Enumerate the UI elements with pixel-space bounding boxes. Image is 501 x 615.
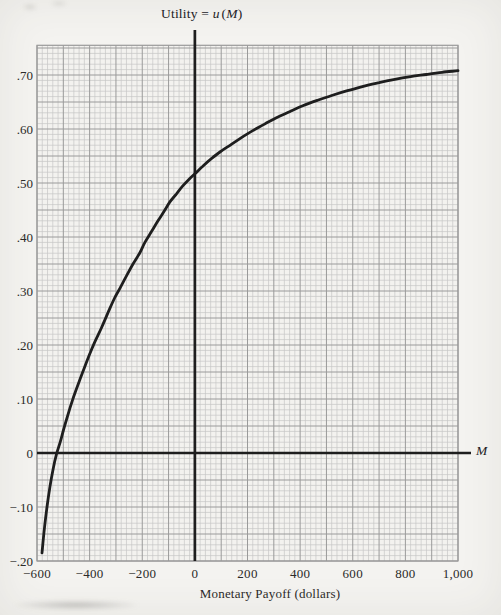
y-tick-label: .40 xyxy=(17,230,33,245)
x-axis-title: Monetary Payoff (dollars) xyxy=(200,586,341,602)
utility-chart: .70.60.50.40.30.20.100−.10−.20−600−400−2… xyxy=(0,0,501,615)
x-tick-label: 600 xyxy=(343,566,363,581)
y-tick-label: .20 xyxy=(17,338,33,353)
x-tick-label: 800 xyxy=(395,566,415,581)
paren-close: ) xyxy=(238,6,243,21)
y-tick-label: .50 xyxy=(17,176,33,191)
utility-function-symbol: u xyxy=(213,6,220,21)
x-axis-symbol-label: M xyxy=(476,443,487,459)
chart-title-text: Utility = xyxy=(161,6,213,21)
x-tick-label: −400 xyxy=(76,566,104,581)
x-tick-labels: −600−400−20002004006008001,000 xyxy=(23,566,473,581)
y-tick-label: .70 xyxy=(17,68,33,83)
y-tick-label: .10 xyxy=(17,392,33,407)
y-tick-labels: .70.60.50.40.30.20.100−.10−.20 xyxy=(9,68,33,569)
y-tick-label: .30 xyxy=(17,284,33,299)
x-tick-label: −200 xyxy=(128,566,156,581)
x-tick-label: 400 xyxy=(290,566,310,581)
y-tick-label: .60 xyxy=(17,122,33,137)
money-variable-symbol: M xyxy=(226,6,237,21)
x-tick-label: 200 xyxy=(237,566,257,581)
y-tick-label: 0 xyxy=(27,446,34,461)
x-tick-label: −600 xyxy=(23,566,51,581)
figure-page: .70.60.50.40.30.20.100−.10−.20−600−400−2… xyxy=(0,0,501,615)
x-tick-label: 0 xyxy=(191,566,198,581)
y-tick-label: −.10 xyxy=(9,500,33,515)
x-tick-label: 1,000 xyxy=(443,566,474,581)
chart-title: Utility = u(M) xyxy=(161,6,242,22)
